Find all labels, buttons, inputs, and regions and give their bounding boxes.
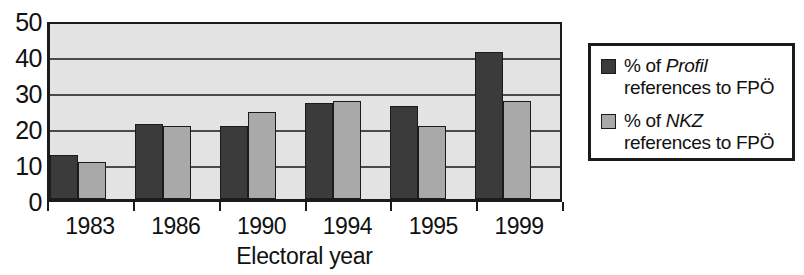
x-axis-title: Electoral year [47,242,562,270]
x-axis-tick-mark-0 [47,202,49,211]
legend-entry-nkz: % of NKZreferences to FPÖ [601,110,786,154]
bar-1995-series-0 [390,106,418,199]
bar-group-1986 [135,24,220,199]
legend-label-profil-italic: Profil [666,55,708,76]
bar-1999-series-0 [475,52,503,199]
legend-swatch-icon-nkz [601,114,616,129]
bar-1990-series-1 [248,112,276,200]
legend-label-profil-suffix: references to FPÖ [624,77,774,98]
x-axis-tick-mark-6 [562,202,564,211]
bar-1995-series-1 [418,126,446,200]
y-axis-tick-40: 40 [4,46,42,71]
bar-1983-series-0 [50,155,78,199]
legend: % of Profilreferences to FPÖ % of NKZref… [588,43,795,161]
legend-label-profil-prefix: % of [624,55,666,76]
legend-label-nkz-suffix: references to FPÖ [624,132,774,153]
x-axis-tick-marks [47,202,562,212]
y-axis-tick-labels: 50 40 30 20 10 0 [0,0,42,275]
x-axis-tick-mark-2 [219,202,221,211]
bars-layer [50,24,560,199]
bar-chart-figure: 50 40 30 20 10 0 1983 1986 1990 1994 199… [0,0,804,275]
x-axis-label-1994: 1994 [304,212,390,242]
y-axis-tick-20: 20 [4,118,42,143]
legend-label-nkz-italic: NKZ [666,110,703,131]
bar-group-1995 [390,24,475,199]
bar-group-1994 [305,24,390,199]
bar-1994-series-1 [333,101,361,199]
bar-1994-series-0 [305,103,333,199]
bar-1983-series-1 [78,162,106,199]
x-axis-label-1990: 1990 [219,212,305,242]
y-axis-tick-0: 0 [4,190,42,215]
bar-1999-series-1 [503,101,531,199]
x-axis-tick-mark-5 [476,202,478,211]
x-axis-tick-labels: 1983 1986 1990 1994 1995 1999 [47,212,562,242]
x-axis-label-1983: 1983 [47,212,133,242]
bar-1986-series-0 [135,124,163,199]
bar-group-1983 [50,24,135,199]
legend-entry-profil: % of Profilreferences to FPÖ [601,55,786,99]
bar-1986-series-1 [163,126,191,200]
plot-area [47,22,562,202]
x-axis-tick-mark-3 [305,202,307,211]
legend-label-nkz-prefix: % of [624,110,666,131]
x-axis-label-1995: 1995 [390,212,476,242]
legend-label-nkz: % of NKZreferences to FPÖ [624,110,774,154]
bar-group-1990 [220,24,305,199]
y-axis-tick-50: 50 [4,10,42,35]
legend-label-profil: % of Profilreferences to FPÖ [624,55,774,99]
y-axis-tick-30: 30 [4,82,42,107]
x-axis-tick-mark-4 [390,202,392,211]
x-axis-label-1986: 1986 [133,212,219,242]
legend-swatch-icon-profil [601,59,616,74]
x-axis-label-1999: 1999 [476,212,562,242]
bar-1990-series-0 [220,126,248,200]
x-axis-tick-mark-1 [133,202,135,211]
bar-group-1999 [475,24,560,199]
y-axis-tick-10: 10 [4,154,42,179]
